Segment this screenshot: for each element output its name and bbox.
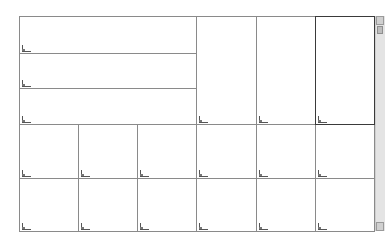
ucs-icon [21, 115, 31, 123]
ucs-icon [80, 169, 90, 177]
ucs-icon [317, 169, 327, 177]
ucs-icon [317, 222, 327, 230]
ucs-icon [21, 44, 31, 52]
ucs-icon [198, 115, 208, 123]
ucs-icon [258, 115, 268, 123]
vp-top-tall-1[interactable] [196, 16, 257, 125]
ucs-icon [317, 115, 327, 123]
scroll-thumb[interactable] [377, 26, 383, 34]
ucs-icon [80, 222, 90, 230]
vp-bot-4[interactable] [196, 178, 257, 232]
scroll-down-button[interactable] [376, 222, 384, 231]
ucs-icon [21, 169, 31, 177]
vp-mid-6[interactable] [315, 124, 375, 179]
vp-top-tall-3[interactable] [315, 16, 375, 125]
vp-top-wide-2[interactable] [19, 53, 197, 89]
scroll-up-button[interactable] [376, 16, 384, 25]
ucs-icon [139, 222, 149, 230]
vertical-scrollbar[interactable] [375, 16, 385, 231]
vp-mid-1[interactable] [19, 124, 79, 179]
vp-top-tall-2[interactable] [256, 16, 316, 125]
vp-bot-2[interactable] [78, 178, 138, 232]
vp-mid-4[interactable] [196, 124, 257, 179]
vp-top-wide-3[interactable] [19, 88, 197, 125]
ucs-icon [198, 222, 208, 230]
vp-mid-5[interactable] [256, 124, 316, 179]
vp-bot-5[interactable] [256, 178, 316, 232]
drawing-canvas[interactable] [0, 0, 392, 239]
ucs-icon [258, 169, 268, 177]
ucs-icon [198, 169, 208, 177]
ucs-icon [139, 169, 149, 177]
vp-bot-1[interactable] [19, 178, 79, 232]
ucs-icon [258, 222, 268, 230]
ucs-icon [21, 79, 31, 87]
vp-bot-3[interactable] [137, 178, 197, 232]
vp-top-wide-1[interactable] [19, 16, 197, 54]
ucs-icon [21, 222, 31, 230]
vp-bot-6[interactable] [315, 178, 375, 232]
vp-mid-2[interactable] [78, 124, 138, 179]
vp-mid-3[interactable] [137, 124, 197, 179]
